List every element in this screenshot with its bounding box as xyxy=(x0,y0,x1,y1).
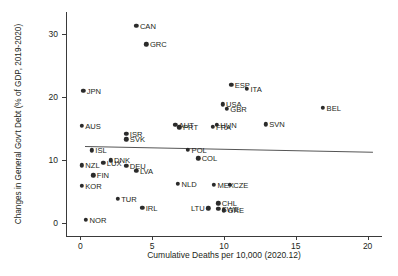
data-point-label: FIN xyxy=(97,171,109,180)
data-point-label: KOR xyxy=(85,181,101,190)
data-point-label: COL xyxy=(202,154,218,163)
x-tick-mark xyxy=(368,236,369,240)
data-point-label: NZL xyxy=(85,161,99,170)
data-point xyxy=(90,148,94,152)
y-tick-label: 0 xyxy=(53,218,58,228)
data-point-label: CZE xyxy=(233,180,248,189)
data-point-label: AUS xyxy=(85,121,101,130)
regression-fit-line xyxy=(85,146,373,153)
data-point-label: ITA xyxy=(250,84,261,93)
data-point-label: SVN xyxy=(269,120,285,129)
data-point xyxy=(212,183,216,187)
data-point xyxy=(196,156,200,160)
data-point-label: GRC xyxy=(150,40,167,49)
scatter-plot-figure: 05101520 0102030 CANGRCJPNESPITAAUSUSAGB… xyxy=(0,0,398,276)
data-point xyxy=(229,82,233,86)
y-tick-mark xyxy=(62,223,66,224)
x-tick-mark xyxy=(152,236,153,240)
data-point-label: JPN xyxy=(87,86,101,95)
data-point-label: LVA xyxy=(140,167,153,176)
data-point xyxy=(80,183,84,187)
data-point-label: POL xyxy=(192,145,207,154)
data-point xyxy=(81,89,85,93)
data-point xyxy=(84,217,88,221)
x-tick-mark xyxy=(296,236,297,240)
data-point-label: NLD xyxy=(182,179,197,188)
data-point xyxy=(134,24,138,28)
data-point xyxy=(206,206,210,210)
x-axis-title: Cumulative Deaths per 10,000 (2020.12) xyxy=(66,250,382,260)
data-point-label: NOR xyxy=(90,215,107,224)
y-tick-label: 30 xyxy=(49,29,58,39)
data-point xyxy=(245,87,249,91)
y-tick-mark xyxy=(62,97,66,98)
data-point-label: GBR xyxy=(230,104,246,113)
data-point xyxy=(116,197,120,201)
data-point xyxy=(134,169,138,173)
data-point xyxy=(80,123,84,127)
data-point xyxy=(263,122,267,126)
y-tick-label: 10 xyxy=(49,155,58,165)
data-point-label: CAN xyxy=(140,21,156,30)
data-point-label: TUR xyxy=(121,194,137,203)
data-point xyxy=(80,163,84,167)
data-point xyxy=(124,164,128,168)
data-point xyxy=(216,201,220,205)
data-point xyxy=(124,137,128,141)
data-point-label: LTU xyxy=(191,204,205,213)
data-point xyxy=(210,125,214,129)
data-point-label: SVK xyxy=(130,135,145,144)
data-point xyxy=(176,181,180,185)
data-point xyxy=(220,102,224,106)
data-point-label: BEL xyxy=(327,103,341,112)
data-point xyxy=(144,42,148,46)
data-point-label: LUX xyxy=(107,158,122,167)
data-point xyxy=(225,106,229,110)
data-point-label: FRA xyxy=(216,122,231,131)
data-point xyxy=(216,207,220,211)
plot-area: 05101520 0102030 CANGRCJPNESPITAAUSUSAGB… xyxy=(66,12,382,236)
data-point-label: GRE xyxy=(228,206,244,215)
data-point-label: IRL xyxy=(146,203,158,212)
data-point xyxy=(91,173,95,177)
data-point-label: PRT xyxy=(183,123,198,132)
y-axis-line xyxy=(66,12,67,236)
data-point xyxy=(321,106,325,110)
x-tick-mark xyxy=(224,236,225,240)
data-point xyxy=(101,161,105,165)
y-axis-title: Changes in General Gov't Debt (% of GDP,… xyxy=(14,12,23,236)
y-tick-label: 20 xyxy=(49,92,58,102)
x-tick-mark xyxy=(80,236,81,240)
data-point xyxy=(124,132,128,136)
data-point-label: ISL xyxy=(95,146,106,155)
data-point xyxy=(186,147,190,151)
y-tick-mark xyxy=(62,160,66,161)
data-point xyxy=(140,205,144,209)
y-tick-mark xyxy=(62,34,66,35)
